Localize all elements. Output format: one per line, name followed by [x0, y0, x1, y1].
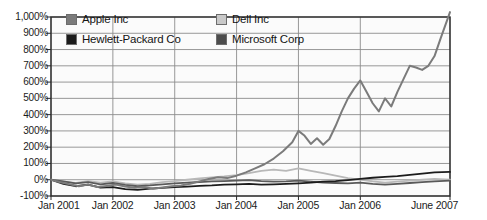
y-tick-label: 100%	[2, 158, 48, 168]
x-tick-label: Jan 2003	[154, 199, 196, 211]
chart-legend: Apple Inc Dell Inc Hewlett-Packard Co Mi…	[66, 13, 356, 51]
y-tick-label: 400%	[2, 110, 48, 120]
legend-swatch-hewlett-packard	[66, 34, 77, 45]
x-tick-label: June 2007	[411, 199, 458, 211]
y-axis-tick-labels: 1,000%900%800%700%600%500%400%300%200%10…	[0, 0, 48, 220]
x-axis-tick-labels: Jan 2001Jan 2002Jan 2003Jan 2004Jan 2005…	[0, 197, 487, 219]
x-tick-label: Jan 2002	[92, 199, 134, 211]
y-tick-label: 800%	[2, 45, 48, 55]
legend-item-apple: Apple Inc	[66, 13, 128, 25]
x-tick-label: Jan 2006	[339, 199, 381, 211]
y-tick-label: 1,000%	[2, 12, 48, 22]
legend-label-microsoft: Microsoft Corp	[232, 33, 304, 45]
legend-item-dell: Dell Inc	[216, 13, 269, 25]
y-tick-label: 0%	[2, 175, 48, 185]
x-tick-label: Jan 2005	[277, 199, 319, 211]
legend-swatch-apple	[66, 14, 77, 25]
y-tick-label: 900%	[2, 28, 48, 38]
legend-swatch-microsoft	[216, 34, 227, 45]
x-tick-label: Jan 2001	[38, 199, 80, 211]
y-tick-label: 300%	[2, 126, 48, 136]
legend-swatch-dell	[216, 14, 227, 25]
legend-label-apple: Apple Inc	[82, 13, 128, 25]
legend-item-hewlett-packard: Hewlett-Packard Co	[66, 33, 181, 45]
y-tick-label: 500%	[2, 93, 48, 103]
legend-label-hewlett-packard: Hewlett-Packard Co	[82, 33, 181, 45]
legend-item-microsoft: Microsoft Corp	[216, 33, 304, 45]
legend-label-dell: Dell Inc	[232, 13, 269, 25]
y-tick-label: 700%	[2, 61, 48, 71]
x-tick-label: Jan 2004	[216, 199, 258, 211]
y-tick-label: 600%	[2, 77, 48, 87]
y-tick-label: 200%	[2, 142, 48, 152]
stock-performance-chart: 1,000%900%800%700%600%500%400%300%200%10…	[0, 0, 487, 220]
